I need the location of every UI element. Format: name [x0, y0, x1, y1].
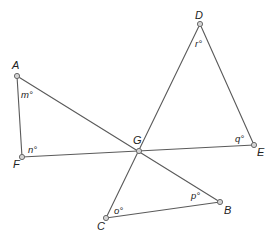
- point-B: [217, 199, 222, 204]
- segment-AB: [17, 76, 220, 202]
- label-A: A: [11, 59, 19, 71]
- angle-label-p: p°: [190, 190, 200, 201]
- angle-label-q: q°: [235, 133, 244, 144]
- point-E: [251, 142, 256, 147]
- angle-label-n: n°: [28, 144, 37, 155]
- angle-label-r: r°: [195, 38, 202, 49]
- point-F: [19, 154, 24, 159]
- geometry-diagram: A D G E F C B m° n° r° q° o° p°: [0, 0, 275, 237]
- label-G: G: [133, 134, 142, 146]
- point-D: [197, 21, 202, 26]
- angle-label-m: m°: [21, 89, 33, 100]
- label-D: D: [195, 9, 203, 21]
- label-F: F: [13, 158, 21, 170]
- label-C: C: [97, 220, 105, 232]
- label-B: B: [224, 204, 231, 216]
- angle-label-o: o°: [114, 205, 123, 216]
- segment-CB: [106, 202, 220, 218]
- point-G: [136, 148, 141, 153]
- label-E: E: [257, 146, 265, 158]
- point-A: [14, 73, 19, 78]
- segment-DE: [200, 24, 254, 145]
- segment-DC: [106, 24, 200, 218]
